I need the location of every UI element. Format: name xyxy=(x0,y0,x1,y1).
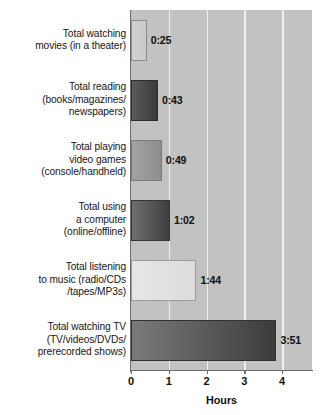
category-label-5: Total watching TV(TV/videos/DVDs/prereco… xyxy=(0,321,126,358)
category-label-line: Total playing xyxy=(0,141,126,153)
category-label-line: newspapers) xyxy=(0,106,126,118)
bar-5[interactable] xyxy=(131,320,276,361)
category-label-line: movies (in a theater) xyxy=(0,40,126,52)
gridline-2 xyxy=(207,10,209,370)
data-label-4: 1:44 xyxy=(200,274,220,286)
tick-mark-3 xyxy=(244,370,245,374)
bar-0[interactable] xyxy=(131,20,147,61)
category-label-line: (console/handheld) xyxy=(0,166,126,178)
category-label-line: Total watching xyxy=(0,28,126,40)
tick-mark-4 xyxy=(282,370,283,374)
category-axis-labels: Total watchingmovies (in a theater)Total… xyxy=(0,10,126,370)
gridline-1 xyxy=(169,10,171,370)
category-label-line: a computer xyxy=(0,214,126,226)
category-label-line: prerecorded shows) xyxy=(0,346,126,358)
category-label-line: Total using xyxy=(0,201,126,213)
x-axis-line xyxy=(130,370,313,371)
category-label-1: Total reading(books/magazines/newspapers… xyxy=(0,81,126,118)
data-label-1: 0:43 xyxy=(162,94,182,106)
bar-chart: Total watchingmovies (in a theater)Total… xyxy=(0,0,333,415)
category-label-2: Total playingvideo games(console/handhel… xyxy=(0,141,126,178)
gridline-3 xyxy=(244,10,246,370)
category-label-line: (online/offline) xyxy=(0,226,126,238)
category-label-line: Total listening xyxy=(0,261,126,273)
category-label-line: (TV/videos/DVDs/ xyxy=(0,334,126,346)
gridline-4 xyxy=(282,10,284,370)
tick-label-2: 2 xyxy=(198,375,216,387)
category-label-line: (books/magazines/ xyxy=(0,94,126,106)
tick-mark-0 xyxy=(131,370,132,374)
tick-mark-1 xyxy=(169,370,170,374)
tick-label-4: 4 xyxy=(273,375,291,387)
plot-area xyxy=(131,10,312,370)
tick-mark-2 xyxy=(207,370,208,374)
tick-label-0: 0 xyxy=(122,375,140,387)
tick-label-1: 1 xyxy=(160,375,178,387)
data-label-2: 0:49 xyxy=(166,154,186,166)
y-axis-line xyxy=(130,10,131,372)
bar-4[interactable] xyxy=(131,260,196,301)
data-label-5: 3:51 xyxy=(280,334,300,346)
data-label-0: 0:25 xyxy=(151,34,171,46)
category-label-line: to music (radio/CDs xyxy=(0,274,126,286)
tick-label-3: 3 xyxy=(235,375,253,387)
category-label-4: Total listeningto music (radio/CDs/tapes… xyxy=(0,261,126,298)
category-label-line: Total reading xyxy=(0,81,126,93)
bar-2[interactable] xyxy=(131,140,162,181)
category-label-line: Total watching TV xyxy=(0,321,126,333)
category-label-line: video games xyxy=(0,154,126,166)
bar-3[interactable] xyxy=(131,200,170,241)
bar-1[interactable] xyxy=(131,80,158,121)
x-axis-title: Hours xyxy=(131,394,312,406)
category-label-3: Total usinga computer(online/offline) xyxy=(0,201,126,238)
category-label-0: Total watchingmovies (in a theater) xyxy=(0,28,126,53)
data-label-3: 1:02 xyxy=(174,214,194,226)
category-label-line: /tapes/MP3s) xyxy=(0,286,126,298)
